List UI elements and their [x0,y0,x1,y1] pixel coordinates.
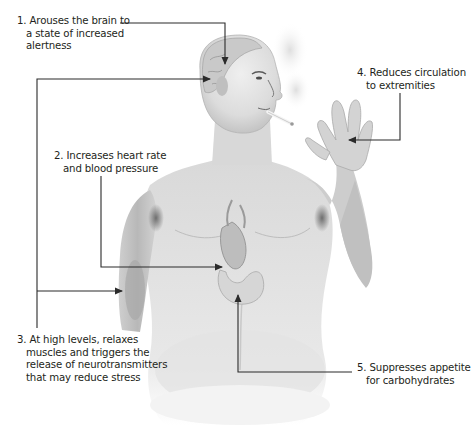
callout-text-line: Reduces circulation [370,67,466,78]
callout-number: 4. [357,67,366,78]
callout-3: 3. At high levels, relaxes muscles and t… [17,334,167,384]
callout-number: 2. [54,150,63,161]
callout-number: 5. [357,362,366,373]
callout-text-line: that may reduce stress [17,372,167,385]
callout-2: 2. Increases heart rate and blood pressu… [54,150,166,175]
callout-text-line: a state of increased [17,28,130,41]
callout-text-line: alertness [17,40,130,53]
callout-text-line: Increases heart rate [67,150,167,161]
callout-text-line: At high levels, relaxes [30,334,139,345]
callout-text-line: for carbohydrates [357,375,471,388]
callout-text-line: Arouses the brain to [30,15,130,26]
callout-text-line: to extremities [357,80,466,93]
callout-1: 1. Arouses the brain to a state of incre… [17,15,130,53]
callout-5: 5. Suppresses appetite for carbohydrates [357,362,471,387]
callout-text-line: Suppresses appetite [370,362,471,373]
cigarette [268,112,294,126]
callout-number: 3. [17,334,26,345]
callout-text-line: and blood pressure [54,163,166,176]
head [200,35,282,133]
callout-text-line: muscles and triggers the [17,347,167,360]
callout-number: 1. [17,15,26,26]
callout-text-line: release of neurotransmitters [17,359,167,372]
callout-4: 4. Reduces circulation to extremities [357,67,466,92]
